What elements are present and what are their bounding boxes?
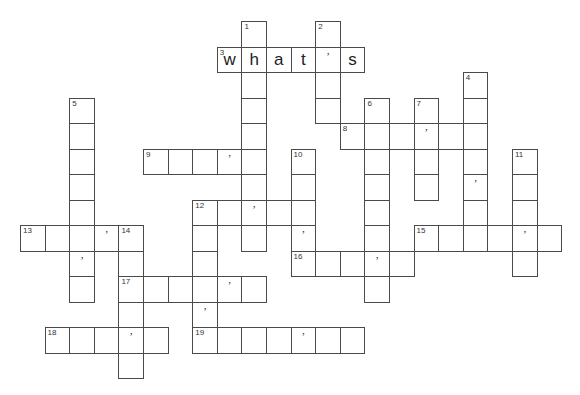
crossword-cell[interactable]: 17	[118, 276, 144, 303]
crossword-cell[interactable]	[315, 251, 341, 278]
crossword-cell[interactable]	[69, 149, 95, 176]
crossword-cell[interactable]	[69, 200, 95, 227]
crossword-cell[interactable]	[241, 72, 267, 99]
crossword-cell[interactable]: 5	[69, 98, 95, 125]
crossword-cell[interactable]: 6	[364, 98, 390, 125]
crossword-cell[interactable]	[438, 123, 464, 150]
crossword-cell[interactable]: ’	[291, 225, 317, 252]
crossword-cell[interactable]	[69, 225, 95, 252]
crossword-cell[interactable]	[69, 276, 95, 303]
crossword-cell[interactable]	[364, 200, 390, 227]
crossword-cell[interactable]	[291, 174, 317, 201]
crossword-cell[interactable]: t	[291, 47, 317, 74]
crossword-cell[interactable]: 13	[20, 225, 46, 252]
crossword-cell[interactable]	[266, 200, 292, 227]
crossword-cell[interactable]	[118, 302, 144, 329]
crossword-cell[interactable]	[241, 174, 267, 201]
crossword-cell[interactable]: a	[266, 47, 292, 74]
crossword-cell[interactable]: ’	[315, 47, 341, 74]
crossword-cell[interactable]	[463, 149, 489, 176]
crossword-cell[interactable]	[487, 225, 513, 252]
crossword-cell[interactable]	[537, 225, 563, 252]
crossword-cell[interactable]	[241, 276, 267, 303]
crossword-cell[interactable]: ’	[217, 276, 243, 303]
crossword-cell[interactable]	[168, 149, 194, 176]
crossword-cell[interactable]	[118, 251, 144, 278]
crossword-cell[interactable]: ’	[94, 225, 120, 252]
crossword-cell[interactable]	[364, 276, 390, 303]
crossword-cell[interactable]	[241, 225, 267, 252]
crossword-cell[interactable]: 14	[118, 225, 144, 252]
crossword-cell[interactable]: 19	[192, 327, 218, 354]
crossword-cell[interactable]: 18	[45, 327, 71, 354]
crossword-cell[interactable]	[168, 276, 194, 303]
crossword-cell[interactable]	[241, 149, 267, 176]
crossword-cell[interactable]	[364, 123, 390, 150]
crossword-cell[interactable]: ’	[118, 327, 144, 354]
crossword-cell[interactable]: ’	[463, 174, 489, 201]
crossword-cell[interactable]: ’	[512, 225, 538, 252]
crossword-cell[interactable]	[463, 98, 489, 125]
crossword-cell[interactable]	[192, 149, 218, 176]
crossword-cell[interactable]	[414, 174, 440, 201]
crossword-cell[interactable]	[414, 149, 440, 176]
crossword-cell[interactable]: 2	[315, 21, 341, 48]
crossword-cell[interactable]	[45, 225, 71, 252]
crossword-cell[interactable]	[389, 251, 415, 278]
crossword-cell[interactable]	[364, 174, 390, 201]
crossword-cell[interactable]	[438, 225, 464, 252]
crossword-cell[interactable]: 15	[414, 225, 440, 252]
crossword-cell[interactable]	[463, 225, 489, 252]
crossword-cell[interactable]	[315, 72, 341, 99]
crossword-cell[interactable]: ’	[364, 251, 390, 278]
crossword-cell[interactable]	[291, 200, 317, 227]
crossword-cell[interactable]: 11	[512, 149, 538, 176]
crossword-cell[interactable]	[192, 251, 218, 278]
crossword-cell[interactable]: ’	[217, 149, 243, 176]
crossword-cell[interactable]	[512, 200, 538, 227]
crossword-cell[interactable]	[241, 123, 267, 150]
crossword-cell[interactable]: h	[241, 47, 267, 74]
crossword-cell[interactable]: 9	[143, 149, 169, 176]
crossword-cell[interactable]: ’	[291, 327, 317, 354]
crossword-cell[interactable]	[192, 276, 218, 303]
crossword-cell[interactable]	[463, 123, 489, 150]
crossword-cell[interactable]: 10	[291, 149, 317, 176]
crossword-cell[interactable]: 16	[291, 251, 317, 278]
crossword-cell[interactable]	[266, 327, 292, 354]
crossword-cell[interactable]: s	[340, 47, 366, 74]
crossword-cell[interactable]	[143, 327, 169, 354]
crossword-cell[interactable]	[241, 98, 267, 125]
crossword-cell[interactable]: 4	[463, 72, 489, 99]
crossword-cell[interactable]	[340, 251, 366, 278]
crossword-cell[interactable]	[69, 174, 95, 201]
crossword-cell[interactable]	[143, 276, 169, 303]
crossword-cell[interactable]	[389, 123, 415, 150]
crossword-cell[interactable]: 7	[414, 98, 440, 125]
crossword-cell[interactable]: ’	[241, 200, 267, 227]
crossword-cell[interactable]: 8	[340, 123, 366, 150]
crossword-cell[interactable]	[315, 98, 341, 125]
crossword-cell[interactable]	[315, 327, 341, 354]
crossword-cell[interactable]	[69, 123, 95, 150]
crossword-cell[interactable]: 3w	[217, 47, 243, 74]
crossword-cell[interactable]	[463, 200, 489, 227]
crossword-cell[interactable]	[118, 353, 144, 380]
crossword-cell[interactable]	[241, 327, 267, 354]
crossword-cell[interactable]: ’	[69, 251, 95, 278]
crossword-cell[interactable]	[217, 327, 243, 354]
crossword-cell[interactable]	[192, 225, 218, 252]
crossword-cell[interactable]	[94, 327, 120, 354]
crossword-cell[interactable]	[364, 225, 390, 252]
crossword-cell[interactable]: ’	[192, 302, 218, 329]
crossword-cell[interactable]	[364, 149, 390, 176]
crossword-cell[interactable]	[217, 200, 243, 227]
crossword-cell[interactable]	[512, 251, 538, 278]
crossword-cell[interactable]	[69, 327, 95, 354]
crossword-cell[interactable]: 12	[192, 200, 218, 227]
crossword-cell[interactable]: ’	[414, 123, 440, 150]
crossword-cell[interactable]: 1	[241, 21, 267, 48]
clue-number: 4	[466, 74, 470, 82]
crossword-cell[interactable]	[340, 327, 366, 354]
crossword-cell[interactable]	[512, 174, 538, 201]
